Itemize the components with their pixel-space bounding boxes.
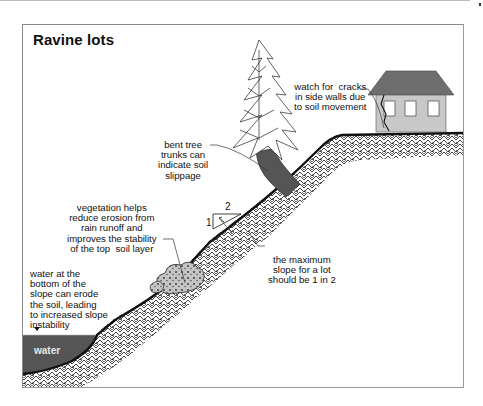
annotation-house-cracks: watch for cracks in side walls due to so…	[294, 82, 367, 113]
soil-layer	[23, 132, 463, 390]
house-icon	[368, 71, 454, 132]
tree-icon	[233, 40, 298, 160]
page-title: Ravine lots	[33, 31, 114, 48]
slope-rise-label: 1	[206, 217, 212, 228]
annotation-bent-trees: bent tree trunks can indicate soil slipp…	[158, 140, 208, 181]
slope-run-label: 2	[225, 201, 231, 212]
water-label: water	[34, 345, 60, 356]
annotation-water-erosion: water at the bottom of the slope can ero…	[30, 269, 108, 330]
annotation-max-slope: the maximum slope for a lot should be 1 …	[268, 255, 336, 286]
annotation-vegetation: vegetation helps reduce erosion from rai…	[67, 203, 157, 254]
